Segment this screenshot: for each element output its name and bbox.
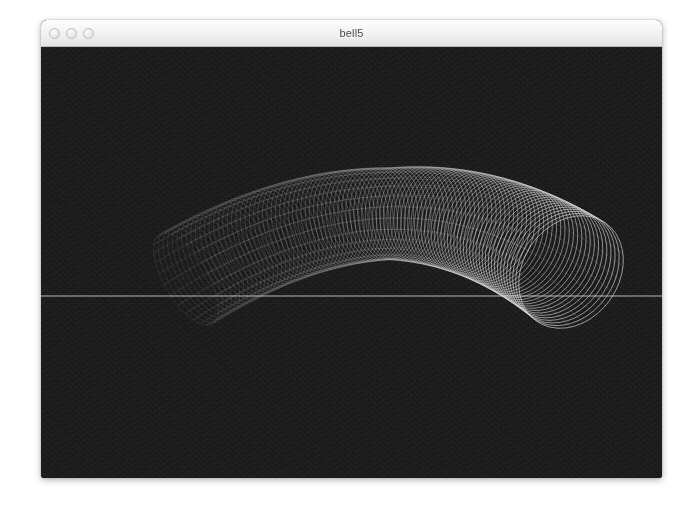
tube-longitudinal-wire (171, 218, 528, 296)
zoom-button[interactable] (83, 28, 94, 39)
wireframe-scene (41, 47, 662, 478)
bell-tube-wireframe (154, 167, 624, 329)
window-title-bar[interactable]: bell5 (41, 20, 662, 47)
3d-wireframe-viewport[interactable] (41, 47, 662, 478)
screenshot-root: bell5 (0, 0, 700, 510)
window-controls-group (49, 20, 94, 47)
close-button[interactable] (49, 28, 60, 39)
window-title: bell5 (41, 27, 662, 39)
tube-longitudinal-wire (207, 259, 528, 326)
application-window[interactable]: bell5 (41, 20, 662, 478)
tube-longitudinal-wire (165, 168, 614, 233)
minimize-button[interactable] (66, 28, 77, 39)
